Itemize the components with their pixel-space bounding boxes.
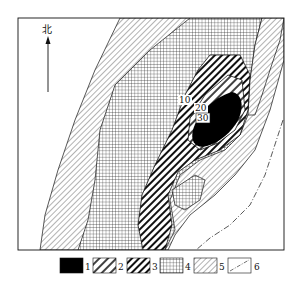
legend-num-3: 3 [152, 262, 158, 272]
north-label: 北 [42, 24, 52, 35]
contour-label-20: 20 [195, 103, 207, 113]
contour-label-30: 30 [197, 113, 209, 123]
legend-swatch-2 [93, 258, 116, 273]
legend: 1 2 3 4 5 6 [60, 258, 260, 273]
legend-num-1: 1 [85, 262, 91, 272]
legend-swatch-3 [127, 258, 150, 273]
legend-swatch-4 [160, 258, 183, 273]
legend-swatch-1 [60, 258, 83, 273]
map-area [18, 18, 284, 250]
legend-num-5: 5 [219, 262, 225, 272]
legend-num-6: 6 [254, 262, 260, 272]
contour-label-10: 10 [179, 95, 191, 105]
legend-num-4: 4 [185, 262, 191, 272]
geologic-zoning-map: 10 20 30 北 1 2 3 4 5 6 [0, 0, 299, 291]
legend-swatch-5 [194, 258, 217, 273]
legend-num-2: 2 [118, 262, 124, 272]
